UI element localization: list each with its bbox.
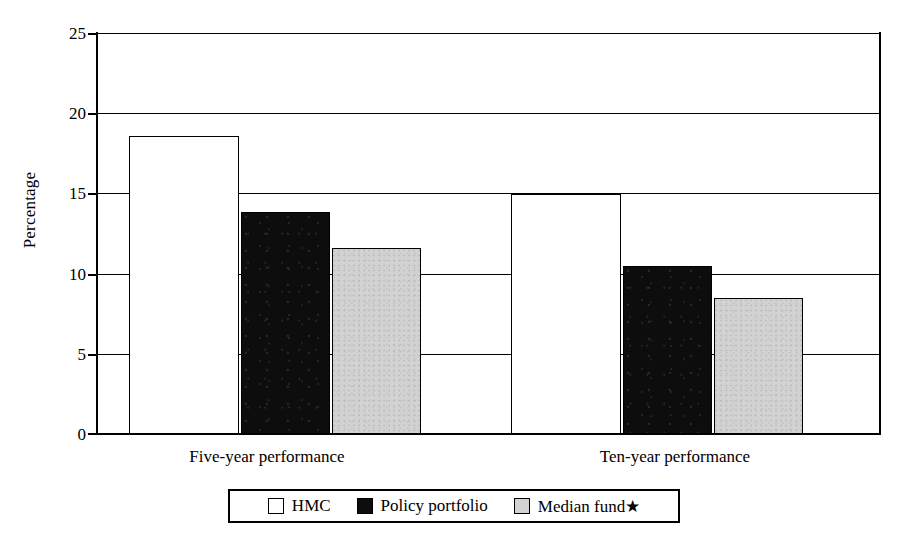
y-tick-label-0: 0 xyxy=(46,426,86,443)
y-tick-label-15: 15 xyxy=(46,185,86,202)
bar-texture xyxy=(715,299,802,433)
bar-ten-year-median-fund[interactable] xyxy=(714,298,803,434)
legend-label-hmc: HMC xyxy=(292,496,331,516)
gray-square-icon xyxy=(514,498,530,514)
y-tick-mark-5 xyxy=(88,354,97,356)
bar-five-year-policy-portfolio[interactable] xyxy=(241,212,330,434)
plot-area xyxy=(97,33,880,434)
y-tick-label-5: 5 xyxy=(46,345,86,362)
y-tick-mark-20 xyxy=(88,113,97,115)
gridline-25 xyxy=(97,33,880,34)
legend-entry-median-fund[interactable]: Median fund★ xyxy=(514,496,640,517)
y-tick-mark-10 xyxy=(88,274,97,276)
bar-ten-year-policy-portfolio[interactable] xyxy=(623,266,712,434)
bar-ten-year-hmc[interactable] xyxy=(511,194,621,434)
x-axis-label-five-year: Five-year performance xyxy=(97,447,437,467)
y-tick-mark-25 xyxy=(88,33,97,35)
plot-right-border xyxy=(879,32,881,435)
bar-texture xyxy=(242,213,329,433)
y-tick-label-25: 25 xyxy=(46,25,86,42)
bar-five-year-hmc[interactable] xyxy=(129,136,239,434)
x-axis-label-ten-year: Ten-year performance xyxy=(505,447,845,467)
white-square-icon xyxy=(268,498,284,514)
y-tick-mark-15 xyxy=(88,193,97,195)
bar-texture xyxy=(333,249,420,433)
bar-chart-figure: Percentage 25 20 15 10 5 0 Five-year per… xyxy=(0,0,907,556)
chart-legend: HMC Policy portfolio Median fund★ xyxy=(228,489,680,523)
y-axis-line xyxy=(96,32,98,435)
y-axis-tick-labels: 25 20 15 10 5 0 xyxy=(40,33,86,434)
y-tick-label-20: 20 xyxy=(46,105,86,122)
y-tick-mark-0 xyxy=(88,433,97,435)
legend-label-median-fund: Median fund★ xyxy=(538,496,640,517)
bar-texture xyxy=(512,195,620,433)
bar-five-year-median-fund[interactable] xyxy=(332,248,421,434)
black-square-icon xyxy=(357,498,373,514)
legend-entry-policy-portfolio[interactable]: Policy portfolio xyxy=(357,496,488,516)
gridline-20 xyxy=(97,113,880,114)
y-axis-title: Percentage xyxy=(20,150,40,270)
legend-entry-hmc[interactable]: HMC xyxy=(268,496,331,516)
legend-label-policy-portfolio: Policy portfolio xyxy=(381,496,488,516)
bar-texture xyxy=(624,267,711,433)
y-tick-label-10: 10 xyxy=(46,265,86,282)
bar-texture xyxy=(130,137,238,433)
